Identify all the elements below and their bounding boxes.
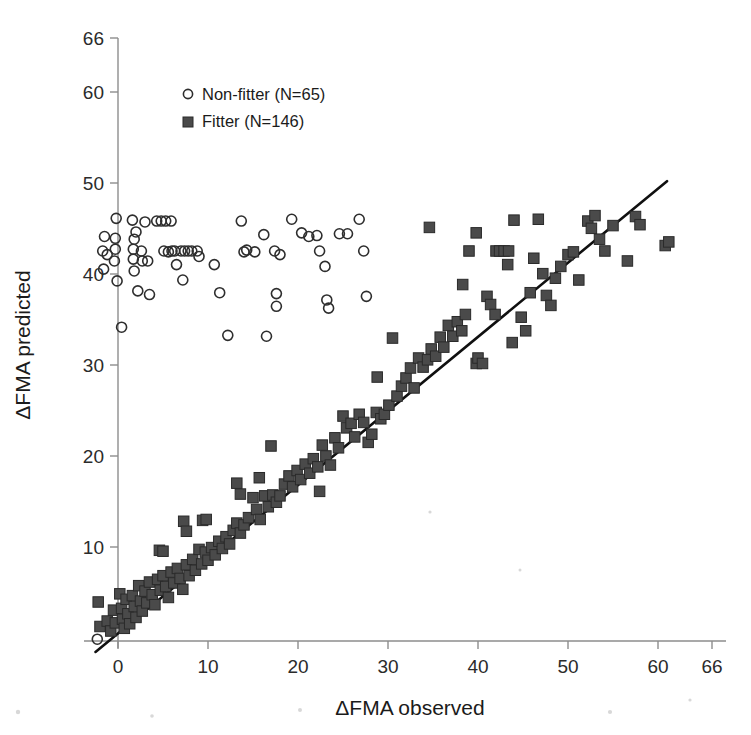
data-point-fitter — [313, 462, 324, 473]
data-point-fitter — [248, 492, 259, 503]
data-point-fitter — [538, 268, 549, 279]
y-axis-title: ΔFMA predicted — [11, 270, 34, 419]
data-point-nonfitter — [354, 214, 364, 224]
data-point-fitter — [507, 337, 518, 348]
data-point-fitter — [178, 584, 189, 595]
data-point-nonfitter — [361, 291, 371, 301]
data-point-nonfitter — [287, 214, 297, 224]
data-point-fitter — [392, 391, 403, 402]
data-point-fitter — [574, 275, 585, 286]
data-point-fitter — [471, 228, 482, 239]
data-point-nonfitter — [100, 231, 110, 241]
data-point-fitter — [181, 526, 192, 537]
data-point-fitter — [349, 432, 360, 443]
data-point-fitter — [150, 599, 161, 610]
x-axis-title: ΔFMA observed — [335, 696, 484, 719]
data-point-fitter — [533, 214, 544, 225]
y-tick-label-30: 30 — [83, 355, 104, 376]
data-point-nonfitter — [92, 634, 102, 644]
data-point-fitter — [251, 504, 262, 515]
data-point-fitter — [255, 514, 266, 525]
data-point-fitter — [235, 489, 246, 500]
x-axis-tick-labels: 0 10 20 30 40 50 60 66 — [113, 656, 723, 677]
data-point-fitter — [178, 516, 189, 527]
data-point-fitter — [325, 460, 336, 471]
data-point-nonfitter — [131, 227, 141, 237]
legend-marker-filled-square — [183, 117, 193, 127]
data-point-nonfitter — [129, 266, 139, 276]
data-point-fitter — [405, 363, 416, 374]
y-axis-ticks — [110, 38, 118, 547]
data-point-fitter — [509, 215, 520, 226]
data-point-fitter — [372, 372, 383, 383]
data-point-fitter — [314, 486, 325, 497]
data-point-fitter — [520, 326, 531, 337]
data-point-fitter — [590, 210, 601, 221]
data-point-fitter — [556, 261, 567, 272]
data-point-fitter — [460, 309, 471, 320]
legend: Non-fitter (N=65) Fitter (N=146) — [183, 85, 325, 130]
data-point-nonfitter — [127, 215, 137, 225]
data-point-fitter — [525, 287, 536, 298]
data-point-fitter — [586, 223, 597, 234]
y-tick-label-40: 40 — [83, 264, 104, 285]
data-point-fitter — [367, 429, 378, 440]
data-point-fitter — [330, 433, 341, 444]
data-point-fitter — [201, 514, 212, 525]
data-point-fitter — [317, 440, 328, 451]
data-point-fitter — [387, 333, 398, 344]
data-point-fitter — [232, 478, 243, 489]
data-point-nonfitter — [133, 286, 143, 296]
data-point-nonfitter — [271, 301, 281, 311]
y-tick-label-20: 20 — [83, 446, 104, 467]
data-point-fitter — [594, 234, 605, 245]
data-point-nonfitter — [215, 288, 225, 298]
data-point-fitter — [550, 273, 561, 284]
data-point-nonfitter — [259, 230, 269, 240]
x-tick-label-40: 40 — [467, 656, 488, 677]
data-point-fitter — [254, 472, 264, 483]
data-point-fitter — [401, 373, 412, 384]
data-point-nonfitter — [112, 276, 122, 286]
data-point-nonfitter — [271, 289, 281, 299]
x-tick-label-10: 10 — [197, 656, 218, 677]
data-point-fitter — [275, 491, 286, 502]
data-point-fitter — [635, 219, 646, 230]
data-point-fitter — [158, 546, 169, 557]
data-point-fitter — [163, 592, 174, 603]
x-tick-label-20: 20 — [287, 656, 308, 677]
legend-label-fitter: Fitter (N=146) — [202, 112, 304, 130]
data-point-fitter — [266, 441, 277, 452]
data-point-fitter — [464, 246, 475, 256]
axis-lines — [84, 38, 726, 648]
data-point-fitter — [503, 246, 513, 256]
data-point-fitter — [93, 597, 104, 608]
data-point-nonfitter — [140, 217, 150, 227]
data-point-nonfitter — [178, 275, 188, 285]
data-point-fitter — [516, 312, 527, 323]
y-tick-label-60: 60 — [83, 82, 104, 103]
data-point-nonfitter — [315, 246, 325, 256]
data-point-fitter — [457, 279, 468, 290]
data-point-nonfitter — [145, 290, 155, 300]
x-tick-label-0: 0 — [113, 656, 124, 677]
data-point-nonfitter — [111, 213, 121, 223]
data-point-nonfitter — [129, 234, 139, 244]
data-point-fitter — [490, 309, 501, 320]
data-point-fitter — [529, 253, 540, 264]
data-point-fitter — [541, 290, 552, 301]
legend-marker-open-circle — [183, 89, 192, 98]
data-point-fitter — [502, 259, 513, 270]
plot-canvas: 66 60 50 40 30 20 10 0 10 20 30 40 50 60 — [0, 0, 751, 735]
y-tick-label-66: 66 — [83, 28, 104, 49]
x-axis-ticks — [118, 641, 712, 649]
data-point-nonfitter — [320, 261, 330, 271]
data-point-nonfitter — [359, 246, 369, 256]
y-tick-label-50: 50 — [83, 173, 104, 194]
x-tick-label-66: 66 — [701, 656, 722, 677]
data-point-nonfitter — [262, 331, 272, 341]
x-tick-label-60: 60 — [647, 656, 668, 677]
data-point-nonfitter — [223, 330, 233, 340]
data-point-fitter — [664, 237, 675, 248]
data-point-fitter — [457, 326, 468, 337]
